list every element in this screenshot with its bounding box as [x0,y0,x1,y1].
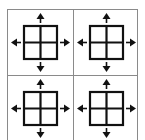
arrow-up-icon [37,13,45,23]
grid-expand-icon [8,10,74,76]
arrow-down-icon [103,62,111,72]
grid-expand-icon [8,76,74,140]
grid-expand-icon [74,76,140,140]
arrow-down-icon [103,128,111,138]
panel-bottom-right [74,76,140,140]
panel-top-right [74,10,140,76]
panel-top-left [8,10,74,76]
grid-expand-icon [74,10,140,76]
arrow-up-icon [103,79,111,89]
arrow-up-icon [37,79,45,89]
arrow-left-icon [77,39,87,47]
arrow-down-icon [37,128,45,138]
arrow-right-icon [60,39,70,47]
arrow-right-icon [126,39,136,47]
arrow-up-icon [103,13,111,23]
arrow-down-icon [37,62,45,72]
panel-bottom-left [8,76,74,140]
arrow-left-icon [11,105,21,113]
arrow-right-icon [60,105,70,113]
arrow-right-icon [126,105,136,113]
arrow-left-icon [11,39,21,47]
arrow-left-icon [77,105,87,113]
